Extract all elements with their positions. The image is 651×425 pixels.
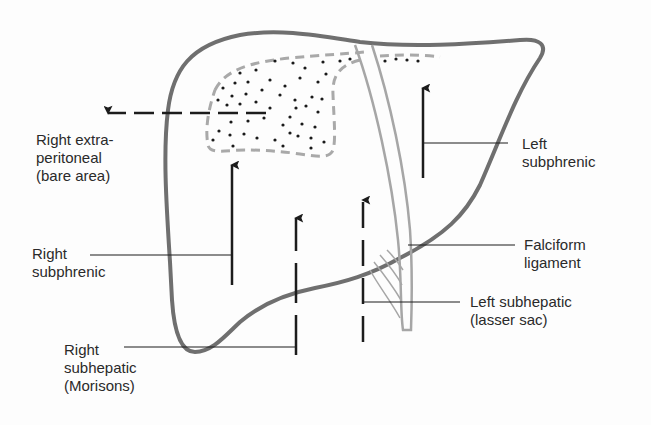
label-left-subphrenic: Left subphrenic xyxy=(522,135,595,171)
label-falciform-ligament: Falciform ligament xyxy=(524,236,586,272)
label-left-subhepatic: Left subhepatic (lasser sac) xyxy=(470,293,572,329)
diagram-canvas: Right extra- peritoneal (bare area) Righ… xyxy=(0,0,651,425)
label-right-subphrenic: Right subphrenic xyxy=(32,245,105,281)
label-right-subhepatic: Right subhepatic (Morisons) xyxy=(64,341,137,395)
label-right-extraperitoneal: Right extra- peritoneal (bare area) xyxy=(36,131,114,185)
